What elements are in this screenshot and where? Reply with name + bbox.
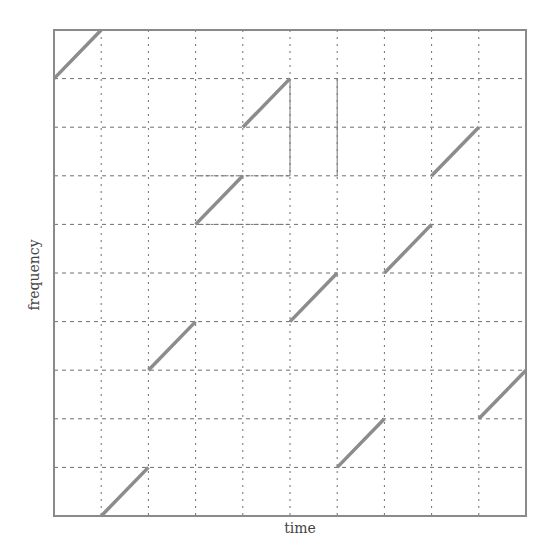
x-axis-label: time — [284, 520, 316, 536]
chirp-segment — [290, 273, 337, 322]
chirp-segment — [148, 322, 195, 371]
chirp-segment — [54, 30, 101, 79]
chirp-segment — [196, 176, 243, 225]
chirp-segment — [384, 224, 431, 273]
chirp-segment — [101, 467, 148, 516]
chirp-segment — [479, 370, 526, 419]
chirp-segment — [243, 79, 290, 128]
chirp-segment — [432, 127, 479, 176]
y-axis-label: frequency — [26, 239, 42, 310]
chirp-segment — [337, 419, 384, 468]
chart: time frequency — [0, 0, 550, 560]
